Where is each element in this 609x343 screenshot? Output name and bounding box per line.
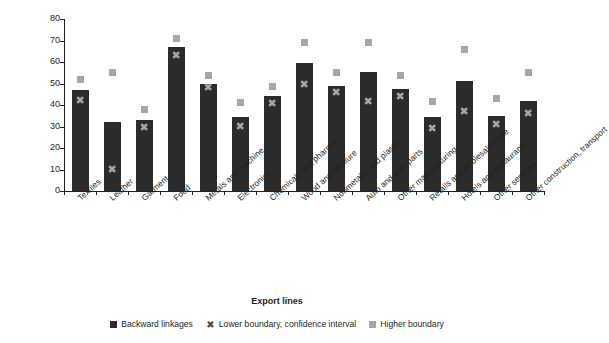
lower-boundary-marker: ✖ (299, 79, 310, 90)
filled-square-grey-icon (369, 321, 376, 328)
y-axis-tick-label: 30 (38, 122, 60, 131)
lower-boundary-marker: ✖ (75, 95, 86, 106)
lower-boundary-marker: ✖ (331, 87, 342, 98)
y-axis-tick (60, 148, 64, 149)
higher-boundary-marker (237, 99, 244, 106)
y-axis-tick-label: 50 (38, 79, 60, 88)
x-axis-tick (384, 191, 385, 195)
lower-boundary-marker: ✖ (459, 106, 470, 117)
higher-boundary-marker (493, 95, 500, 102)
x-axis-tick (512, 191, 513, 195)
x-axis-tick (224, 191, 225, 195)
y-axis-tick (60, 127, 64, 128)
y-axis-tick-label: 70 (38, 36, 60, 45)
y-axis-tick-label: 60 (38, 57, 60, 66)
bar (168, 47, 185, 191)
y-axis-tick-label: 20 (38, 143, 60, 152)
lower-boundary-marker: ✖ (235, 121, 246, 132)
y-axis-tick (60, 170, 64, 171)
lower-boundary-marker: ✖ (171, 50, 182, 61)
legend-item: ✖Lower boundary, confidence interval (206, 319, 356, 329)
x-axis-title: Export lines (0, 296, 554, 306)
filled-square-dark-icon (110, 321, 117, 328)
x-axis-tick (160, 191, 161, 195)
higher-boundary-marker (525, 69, 532, 76)
lower-boundary-marker: ✖ (139, 122, 150, 133)
x-marker-icon: ✖ (206, 320, 215, 329)
y-axis-tick (60, 62, 64, 63)
y-axis-tick-label: 10 (38, 165, 60, 174)
x-axis-tick (448, 191, 449, 195)
y-axis-tick (60, 105, 64, 106)
y-axis-line (64, 19, 65, 191)
higher-boundary-marker (269, 83, 276, 90)
y-axis-tick-label: 80 (38, 14, 60, 23)
y-axis-tick-label: 40 (38, 100, 60, 109)
lower-boundary-marker: ✖ (395, 91, 406, 102)
higher-boundary-marker (429, 98, 436, 105)
lower-boundary-marker: ✖ (107, 164, 118, 175)
x-axis-tick (96, 191, 97, 195)
lower-boundary-marker: ✖ (523, 108, 534, 119)
lower-boundary-marker: ✖ (203, 82, 214, 93)
lower-boundary-marker: ✖ (363, 96, 374, 107)
x-axis-tick (320, 191, 321, 195)
higher-boundary-marker (205, 72, 212, 79)
higher-boundary-marker (173, 35, 180, 42)
y-axis-tick (60, 41, 64, 42)
x-axis-tick (64, 191, 65, 195)
x-axis-tick (352, 191, 353, 195)
y-axis-tick (60, 84, 64, 85)
higher-boundary-marker (109, 69, 116, 76)
higher-boundary-marker (301, 39, 308, 46)
x-axis-tick (544, 191, 545, 195)
y-axis-tick-label: 0 (38, 186, 60, 195)
higher-boundary-marker (141, 106, 148, 113)
x-axis-tick (128, 191, 129, 195)
higher-boundary-marker (333, 69, 340, 76)
lower-boundary-marker: ✖ (267, 98, 278, 109)
chart-legend: Backward linkages✖Lower boundary, confid… (0, 319, 554, 329)
legend-label: Lower boundary, confidence interval (219, 319, 356, 329)
legend-label: Backward linkages (121, 319, 193, 329)
bar (200, 84, 217, 192)
x-axis-tick (288, 191, 289, 195)
higher-boundary-marker (397, 72, 404, 79)
x-axis-tick (480, 191, 481, 195)
lower-boundary-marker: ✖ (427, 123, 438, 134)
x-axis-tick (416, 191, 417, 195)
x-axis-tick (256, 191, 257, 195)
legend-label: Higher boundary (380, 319, 444, 329)
legend-item: Higher boundary (369, 319, 444, 329)
higher-boundary-marker (365, 39, 372, 46)
higher-boundary-marker (77, 76, 84, 83)
bar (104, 122, 121, 191)
y-axis-tick (60, 19, 64, 20)
higher-boundary-marker (461, 46, 468, 53)
legend-item: Backward linkages (110, 319, 193, 329)
x-axis-tick (192, 191, 193, 195)
